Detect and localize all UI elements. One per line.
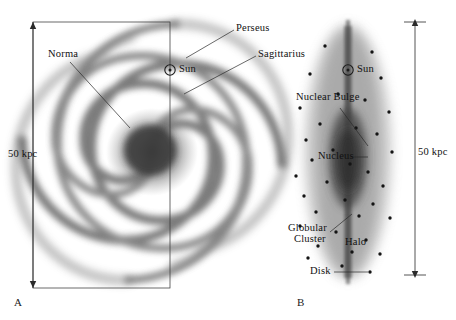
- globular-cluster-dot: [370, 50, 373, 53]
- label-scale-b: 50 kpc: [418, 146, 448, 157]
- label-norma: Norma: [48, 48, 78, 59]
- galactic-core-inner: [124, 125, 176, 175]
- globular-cluster-dot: [348, 162, 351, 165]
- globular-cluster-dot: [357, 214, 360, 217]
- globular-cluster-dot: [334, 230, 337, 233]
- label-sun-b: Sun: [357, 63, 374, 74]
- globular-cluster-dot: [318, 122, 321, 125]
- globular-cluster-dot: [387, 110, 390, 113]
- globular-cluster-dot: [371, 202, 374, 205]
- globular-cluster-dot: [378, 252, 381, 255]
- globular-cluster-dot: [325, 180, 328, 183]
- globular-cluster-dot: [310, 158, 313, 161]
- label-perseus: Perseus: [236, 22, 269, 33]
- panel-letter-a: A: [14, 296, 22, 308]
- label-sun-a: Sun: [179, 63, 196, 74]
- globular-cluster-dot: [388, 216, 391, 219]
- globular-cluster-dot: [366, 170, 369, 173]
- globular-cluster-dot: [294, 174, 297, 177]
- label-sagittarius: Sagittarius: [258, 48, 305, 59]
- globular-cluster-dot: [323, 44, 326, 47]
- label-nuclear-bulge: Nuclear Bulge: [296, 91, 360, 102]
- leader-perseus: [186, 30, 234, 58]
- label-disk: Disk: [310, 265, 331, 276]
- globular-cluster-dot: [298, 106, 301, 109]
- globular-cluster-dot: [306, 256, 309, 259]
- globular-cluster-dot: [363, 98, 366, 101]
- panel-letter-b: B: [297, 296, 304, 308]
- globular-cluster-dot: [304, 138, 307, 141]
- globular-cluster-dot: [379, 76, 382, 79]
- label-scale-a: 50 kpc: [8, 148, 38, 159]
- globular-cluster-dot: [316, 244, 319, 247]
- figure-canvas: Norma Perseus Sagittarius Sun 50 kpc A S…: [0, 0, 456, 320]
- globular-cluster-dot: [343, 198, 346, 201]
- globular-cluster-dot: [381, 184, 384, 187]
- globular-cluster-dot: [340, 264, 343, 267]
- globular-cluster-dot: [314, 210, 317, 213]
- globular-cluster-dot: [390, 150, 393, 153]
- label-globular-cluster-line1: Globular: [288, 222, 327, 233]
- label-globular-cluster-line2: Cluster: [294, 233, 326, 244]
- globular-cluster-dot: [350, 250, 353, 253]
- globular-cluster-dot: [368, 270, 371, 273]
- globular-cluster-dot: [375, 132, 378, 135]
- label-nucleus: Nucleus: [318, 150, 354, 161]
- globular-cluster-dot: [308, 72, 311, 75]
- globular-cluster-dot: [302, 194, 305, 197]
- label-halo: Halo: [345, 236, 366, 247]
